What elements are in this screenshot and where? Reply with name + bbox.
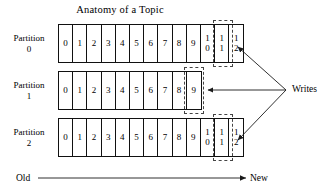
write-arrow-partition-0 bbox=[238, 47, 286, 90]
writes-label: Writes bbox=[292, 84, 317, 94]
axis-new-label: New bbox=[250, 173, 268, 183]
write-arrow-partition-2 bbox=[238, 90, 286, 140]
axis-old-label: Old bbox=[16, 173, 30, 183]
arrows-overlay bbox=[0, 0, 325, 196]
diagram-canvas: Anatomy of a Topic Partition 0 012345678… bbox=[0, 0, 325, 196]
